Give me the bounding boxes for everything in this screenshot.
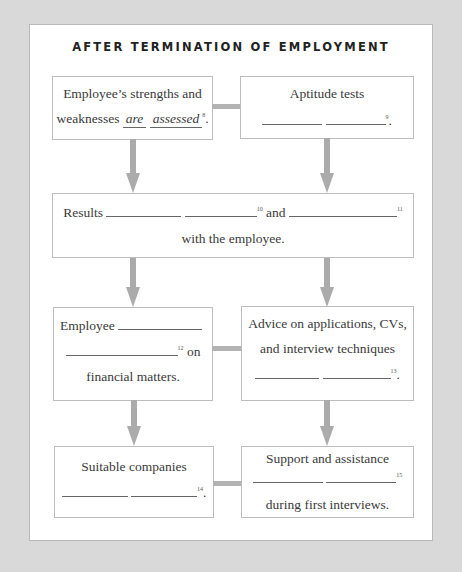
flowchart-title: AFTER TERMINATION OF EMPLOYMENT: [30, 40, 432, 54]
connector-row3: [212, 346, 242, 351]
blank-12b[interactable]: [66, 343, 178, 356]
box-strengths-weaknesses: Employee’s strengths and weaknesses are …: [52, 76, 213, 140]
box-results: Results 10 and 11 with the employee.: [52, 193, 414, 258]
blank-12a[interactable]: [118, 317, 202, 330]
strengths-line-2: weaknesses are assessed8.: [53, 111, 212, 128]
answer-8b[interactable]: assessed: [150, 111, 203, 128]
results-and: and: [266, 205, 286, 220]
question-number-11: 11: [397, 206, 403, 212]
box-support-assistance: Support and assistance 15 during first i…: [241, 446, 414, 518]
blank-10b[interactable]: [185, 204, 257, 217]
advice-line-2: and interview techniques: [242, 341, 413, 357]
question-number-12: 12: [178, 345, 184, 351]
employee-line-3: financial matters.: [54, 369, 212, 385]
box-aptitude-tests: Aptitude tests 9.: [240, 76, 414, 139]
aptitude-line-1: Aptitude tests: [241, 86, 413, 102]
blank-14b[interactable]: [131, 484, 197, 497]
box-employee-financial: Employee 12 on financial matters.: [53, 307, 213, 401]
connector-row4: [213, 481, 241, 486]
employee-prefix: Employee: [60, 318, 115, 333]
arrow-down-icon: [126, 139, 140, 193]
blank-14a[interactable]: [62, 484, 128, 497]
question-number-15: 15: [396, 472, 402, 478]
blank-11[interactable]: [289, 204, 397, 217]
arrow-down-icon: [320, 258, 334, 307]
blank-13a[interactable]: [255, 366, 319, 379]
connector-row1: [212, 104, 241, 109]
employee-on: on: [187, 344, 201, 359]
box-suitable-companies: Suitable companies 14.: [54, 446, 214, 518]
employee-line-1: Employee: [54, 317, 212, 334]
answer-8a[interactable]: are: [123, 111, 147, 128]
blank-10a[interactable]: [106, 204, 181, 217]
strengths-prefix: weaknesses: [56, 111, 119, 126]
blank-15a[interactable]: [253, 470, 323, 483]
advice-suffix: .: [397, 367, 400, 382]
arrow-down-icon: [126, 258, 140, 307]
support-line-2: 15: [242, 470, 413, 487]
arrow-down-icon: [127, 400, 141, 446]
aptitude-line-2: 9.: [241, 112, 413, 129]
arrow-down-icon: [320, 400, 334, 446]
blank-9b[interactable]: [326, 112, 386, 125]
companies-suffix: .: [203, 485, 206, 500]
strengths-line-1: Employee’s strengths and: [53, 86, 212, 102]
blank-13b[interactable]: [323, 366, 391, 379]
question-number-10: 10: [257, 206, 263, 212]
advice-line-1: Advice on applications, CVs,: [242, 316, 413, 332]
blank-9a[interactable]: [262, 112, 322, 125]
companies-line-1: Suitable companies: [55, 459, 213, 475]
companies-line-2: 14.: [55, 484, 213, 501]
blank-15b[interactable]: [326, 470, 396, 483]
support-line-1: Support and assistance: [242, 451, 413, 467]
results-line-1: Results 10 and 11: [53, 204, 413, 221]
strengths-suffix: .: [205, 111, 208, 126]
results-line-2: with the employee.: [53, 231, 413, 247]
support-line-3: during first interviews.: [242, 497, 413, 513]
box-advice: Advice on applications, CVs, and intervi…: [241, 306, 414, 401]
advice-line-3: 13.: [242, 366, 413, 383]
results-prefix: Results: [63, 205, 103, 220]
aptitude-suffix: .: [389, 113, 392, 128]
employee-line-2: 12 on: [54, 343, 212, 360]
arrow-down-icon: [320, 138, 334, 193]
